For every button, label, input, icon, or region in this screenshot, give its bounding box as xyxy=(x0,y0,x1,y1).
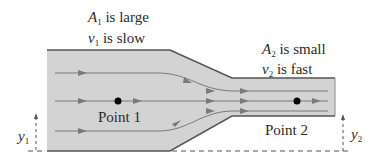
y1-arrow-icon xyxy=(34,113,38,119)
area-1-label: A1 is large xyxy=(87,9,149,27)
area-2-label: A2 is small xyxy=(261,41,326,59)
diagram-canvas: A1 is large v1 is slow Point 1 y1 A2 is … xyxy=(0,0,376,161)
velocity-2-label: v2 is fast xyxy=(262,61,313,79)
y2-label: y2 xyxy=(349,126,362,144)
y1-label: y1 xyxy=(16,128,29,146)
y2-arrow-icon xyxy=(341,114,345,120)
point-1-label: Point 1 xyxy=(98,109,141,125)
point-2-marker xyxy=(294,98,301,105)
point-2-label: Point 2 xyxy=(265,122,308,138)
point-1-marker xyxy=(115,98,122,105)
velocity-1-label: v1 is slow xyxy=(88,30,145,48)
continuity-diagram: A1 is large v1 is slow Point 1 y1 A2 is … xyxy=(0,0,376,161)
